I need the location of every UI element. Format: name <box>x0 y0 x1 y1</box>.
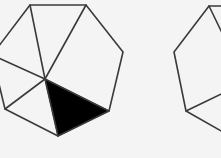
figure-canvas <box>0 0 221 158</box>
right-spoke-lower <box>186 85 221 111</box>
right-octagon-outline <box>174 6 221 136</box>
spoke-left <box>0 55 45 79</box>
spoke-top-left <box>30 5 45 79</box>
spoke-lower-left <box>5 79 45 109</box>
spoke-top-right <box>45 5 86 79</box>
left-octagon <box>0 5 123 136</box>
right-octagon <box>174 6 221 136</box>
right-spoke-top <box>209 6 221 70</box>
